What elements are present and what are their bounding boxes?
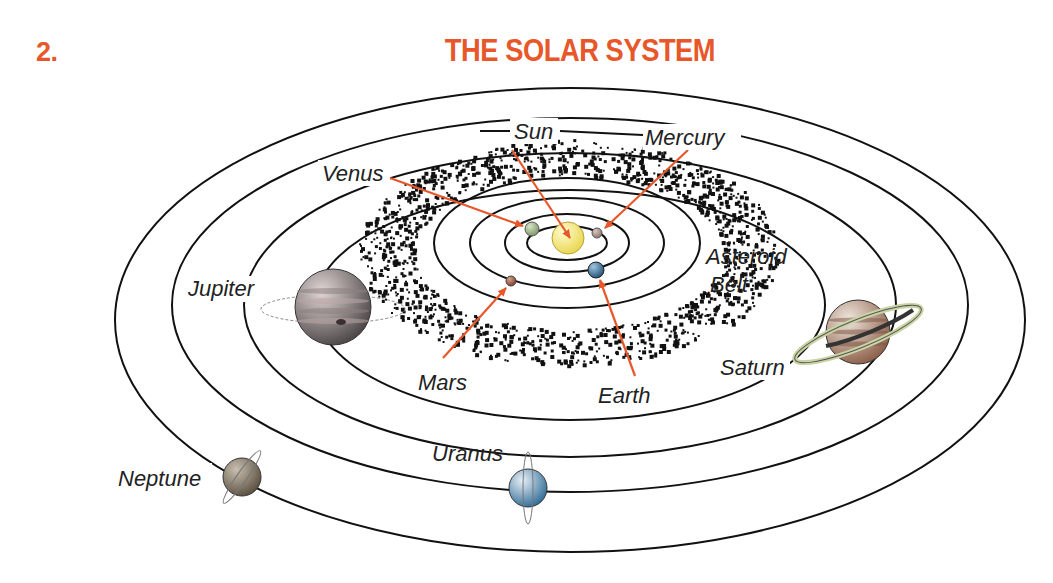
solar-system-figure: 2. THE SOLAR SYSTEM — [0, 0, 1053, 583]
label-saturn: Saturn — [720, 355, 785, 380]
label-mercury: Mercury — [645, 125, 726, 150]
label-venus: Venus — [322, 161, 384, 186]
mercury-planet — [592, 228, 602, 238]
sun-planet — [552, 222, 584, 254]
neptune-planet — [223, 458, 261, 496]
great-red-spot — [336, 319, 346, 325]
label-asteroid: Asteroid — [704, 244, 787, 269]
mars-planet — [506, 276, 516, 286]
label-uranus: Uranus — [432, 441, 503, 466]
label-earth: Earth — [598, 383, 651, 408]
jupiter-planet — [295, 269, 371, 345]
label-mars: Mars — [418, 370, 467, 395]
label-belt: Belt — [710, 272, 749, 297]
uranus-planet — [509, 469, 547, 507]
label-neptune: Neptune — [118, 466, 201, 491]
venus-planet — [525, 222, 539, 236]
label-jupiter: Jupiter — [187, 276, 256, 301]
solar-system-diagram: Sun Mercury Venus Asteroid Belt Jupiter … — [0, 0, 1053, 583]
sun-mercury-line — [560, 131, 643, 135]
earth-planet — [588, 262, 604, 278]
label-sun: Sun — [514, 119, 553, 144]
